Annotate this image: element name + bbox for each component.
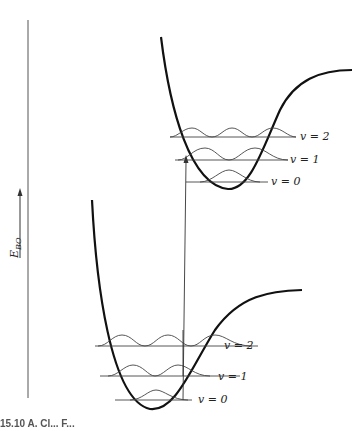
figure-caption: 15.10 A. Cl... F... (0, 418, 75, 429)
ground-level-v0-label: v = 0 (198, 393, 227, 406)
energy-axis-label: EBO (8, 237, 23, 258)
excited-level-v1-label: v = 1 (290, 153, 319, 166)
franck-condon-diagram: EBO v = 2 v = 1 v = 0 v = 2 v = 1 v = 0 … (0, 0, 361, 431)
potential-curves-graphic (0, 0, 361, 431)
excited-wavefunction-v2 (170, 128, 296, 137)
excited-state-curve (161, 37, 352, 189)
ground-level-v1-label: v = 1 (218, 370, 247, 383)
excited-wavefunction-v1 (178, 148, 288, 160)
axis-arrow-head (18, 188, 23, 196)
ground-level-v2-label: v = 2 (224, 339, 253, 352)
excited-level-v2-label: v = 2 (300, 130, 329, 143)
excited-level-v0-label: v = 0 (271, 175, 300, 188)
ground-state-curve (92, 200, 302, 409)
